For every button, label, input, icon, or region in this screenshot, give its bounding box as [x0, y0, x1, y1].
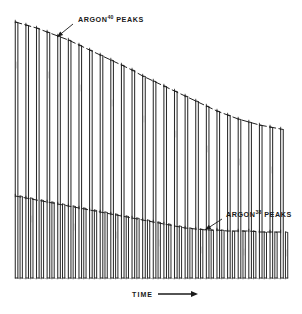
- argon-peaks-figure: ARGON40 PEAKS ARGON38 PEAKS TIME: [0, 0, 302, 314]
- spectrometer-trace-plot: ARGON40 PEAKS ARGON38 PEAKS TIME: [0, 0, 302, 314]
- time-axis-label: TIME: [132, 291, 153, 298]
- plot-background: [0, 0, 302, 314]
